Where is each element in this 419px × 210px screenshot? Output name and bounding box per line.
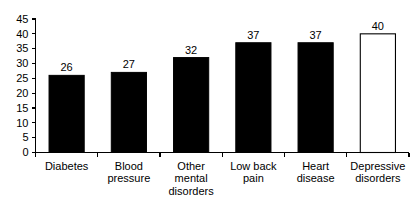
y-tick-label-0: 0 — [22, 146, 28, 158]
x-label-2-line-0: Other — [177, 160, 205, 172]
x-label-1-line-0: Blood — [115, 160, 143, 172]
x-label-0-line-0: Diabetes — [45, 160, 89, 172]
bar-blood-pressure — [111, 72, 146, 152]
bar-heart-disease — [298, 43, 333, 153]
bar-value-label-4: 37 — [310, 29, 322, 41]
bar-low-back-pain — [236, 43, 271, 153]
bar-other-mental-disorders — [174, 58, 209, 153]
x-label-4-line-1: disease — [297, 172, 335, 184]
x-label-5-line-1: disorders — [355, 172, 401, 184]
bar-value-label-2: 32 — [185, 44, 197, 56]
x-label-1-line-1: pressure — [107, 172, 150, 184]
y-tick-label-25: 25 — [16, 72, 28, 84]
x-label-2-line-2: disorders — [169, 185, 215, 197]
x-label-4-line-0: Heart — [302, 160, 329, 172]
x-label-3-line-0: Low back — [230, 160, 277, 172]
chart-canvas: 051015202530354045 262732373740 Diabetes… — [0, 0, 419, 210]
bar-chart: 051015202530354045 262732373740 Diabetes… — [0, 0, 419, 210]
y-tick-label-45: 45 — [16, 13, 28, 25]
bar-value-label-3: 37 — [247, 29, 259, 41]
bar-value-label-5: 40 — [372, 20, 384, 32]
x-label-5-line-0: Depressive — [350, 160, 405, 172]
y-tick-label-20: 20 — [16, 87, 28, 99]
bar-depressive-disorders — [360, 34, 395, 153]
y-tick-label-30: 30 — [16, 57, 28, 69]
y-tick-label-40: 40 — [16, 28, 28, 40]
y-tick-label-35: 35 — [16, 42, 28, 54]
bar-value-label-0: 26 — [61, 61, 73, 73]
bar-diabetes — [49, 75, 84, 152]
y-tick-label-5: 5 — [22, 131, 28, 143]
y-tick-label-10: 10 — [16, 117, 28, 129]
x-label-2-line-1: mental — [175, 172, 208, 184]
y-tick-label-15: 15 — [16, 102, 28, 114]
x-label-3-line-1: pain — [243, 172, 264, 184]
bar-value-label-1: 27 — [123, 58, 135, 70]
